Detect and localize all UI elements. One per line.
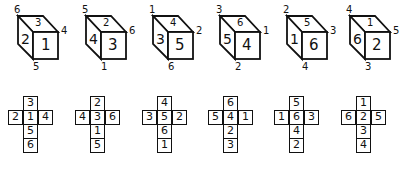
cube-face-left: 6 (353, 34, 362, 44)
net-cell-below: 5 (23, 124, 38, 139)
cube-corner-right: 2 (196, 26, 202, 36)
net-5: 5 1 6 3 4 2 (274, 96, 334, 166)
net-cell-right: 2 (172, 110, 187, 125)
cube-5: 5 1 6 2 3 4 (277, 4, 343, 74)
net-cell-left: 1 (274, 110, 289, 125)
cube-corner-top-left: 6 (14, 5, 20, 15)
net-cell-top: 3 (23, 96, 38, 111)
cube-corner-top-left: 5 (82, 5, 88, 15)
net-cell-right: 5 (371, 110, 386, 125)
net-cell-center: 6 (289, 110, 304, 125)
net-cell-center: 5 (157, 110, 172, 125)
cube-face-top: 3 (35, 18, 41, 28)
net-cell-left: 2 (8, 110, 23, 125)
cube-corner-top-left: 4 (346, 5, 352, 15)
cube-corner-bottom: 3 (365, 62, 371, 72)
net-cell-left: 6 (341, 110, 356, 125)
cube-face-left: 4 (89, 34, 98, 44)
cube-face-left: 3 (156, 34, 165, 44)
cube-face-top: 5 (304, 18, 310, 28)
cube-face-front: 5 (175, 40, 185, 50)
cube-corner-right: 3 (330, 26, 336, 36)
net-cell-center: 1 (23, 110, 38, 125)
net-cell-below: 2 (223, 124, 238, 139)
net-cell-bottom: 1 (157, 138, 172, 153)
net-cell-right: 1 (238, 110, 253, 125)
cube-6: 1 6 2 4 5 3 (340, 4, 404, 74)
cube-4: 6 5 4 3 1 2 (210, 4, 276, 74)
net-1: 3 2 1 4 5 6 (8, 96, 68, 166)
cube-face-top: 1 (367, 18, 373, 28)
net-cell-left: 4 (75, 110, 90, 125)
net-cell-top: 6 (223, 96, 238, 111)
cube-face-top: 4 (170, 18, 176, 28)
net-cell-right: 6 (105, 110, 120, 125)
cube-face-left: 1 (290, 34, 299, 44)
cube-face-top: 2 (103, 18, 109, 28)
net-cell-bottom: 2 (289, 138, 304, 153)
net-cell-left: 5 (208, 110, 223, 125)
net-cell-left: 3 (142, 110, 157, 125)
net-cell-center: 3 (90, 110, 105, 125)
net-cell-right: 3 (304, 110, 319, 125)
net-cell-top: 2 (90, 96, 105, 111)
cube-corner-top-left: 2 (283, 5, 289, 15)
cube-face-left: 5 (223, 34, 232, 44)
cube-corner-top-left: 3 (216, 5, 222, 15)
net-cell-bottom: 5 (90, 138, 105, 153)
net-cell-bottom: 4 (356, 138, 371, 153)
cube-corner-bottom: 2 (235, 62, 241, 72)
cube-face-front: 6 (309, 40, 319, 50)
net-cell-below: 4 (289, 124, 304, 139)
cube-corner-right: 5 (393, 26, 399, 36)
net-6: 1 6 2 5 3 4 (341, 96, 401, 166)
cube-corner-right: 1 (263, 26, 269, 36)
net-cell-below: 1 (90, 124, 105, 139)
cube-corner-right: 4 (61, 26, 67, 36)
cube-corner-bottom: 4 (302, 62, 308, 72)
cube-face-front: 4 (242, 40, 252, 50)
net-4: 6 5 4 1 2 3 (208, 96, 268, 166)
net-cell-bottom: 3 (223, 138, 238, 153)
net-cell-top: 4 (157, 96, 172, 111)
cube-corner-bottom: 6 (168, 62, 174, 72)
cube-corner-top-left: 1 (149, 5, 155, 15)
cube-corner-bottom: 5 (33, 62, 39, 72)
net-cell-center: 2 (356, 110, 371, 125)
cube-face-front: 2 (372, 40, 382, 50)
cube-corner-right: 6 (129, 26, 135, 36)
cube-face-front: 3 (108, 40, 118, 50)
cube-face-left: 2 (21, 34, 30, 44)
net-2: 2 4 3 6 1 5 (75, 96, 135, 166)
cube-face-top: 6 (237, 18, 243, 28)
net-cell-below: 6 (157, 124, 172, 139)
cube-1: 3 2 1 6 4 5 (8, 4, 74, 74)
cube-3: 4 3 5 1 2 6 (143, 4, 209, 74)
cube-face-front: 1 (41, 40, 51, 50)
net-cell-bottom: 6 (23, 138, 38, 153)
net-cell-below: 3 (356, 124, 371, 139)
net-cell-right: 4 (38, 110, 53, 125)
net-cell-top: 5 (289, 96, 304, 111)
net-3: 4 3 5 2 6 1 (142, 96, 202, 166)
net-cell-center: 4 (223, 110, 238, 125)
cube-corner-bottom: 1 (101, 62, 107, 72)
net-cell-top: 1 (356, 96, 371, 111)
cube-2: 2 4 3 5 6 1 (76, 4, 142, 74)
